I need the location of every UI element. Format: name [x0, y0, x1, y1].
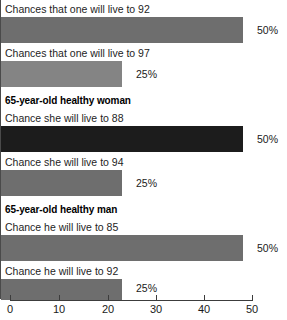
bar-value-6: 50% — [257, 242, 278, 254]
x-tick-40 — [204, 295, 205, 301]
bar-label-1: Chances that one will live to 97 — [5, 47, 150, 59]
horizontal-bar-chart: Chances that one will live to 92 50% Cha… — [0, 0, 287, 320]
bar-label-7: Chance he will live to 92 — [5, 265, 118, 277]
x-tick-label-50: 50 — [246, 303, 258, 316]
bar-1 — [1, 61, 122, 87]
x-tick-20 — [108, 295, 109, 301]
bar-value-4: 25% — [136, 177, 157, 189]
bar-value-3: 50% — [257, 133, 278, 145]
bar-value-7: 25% — [136, 282, 157, 294]
bar-3-highlighted — [1, 126, 243, 152]
x-tick-30 — [156, 295, 157, 301]
bar-label-0: Chances that one will live to 92 — [5, 3, 150, 15]
bar-label-4: Chance she will live to 94 — [5, 156, 123, 168]
x-tick-10 — [59, 295, 60, 301]
x-tick-label-10: 10 — [53, 303, 65, 316]
x-tick-0 — [10, 295, 11, 301]
bar-value-1: 25% — [136, 68, 157, 80]
x-tick-50 — [252, 295, 253, 301]
bar-value-0: 50% — [257, 24, 278, 36]
bar-label-3: Chance she will live to 88 — [5, 112, 123, 124]
x-tick-label-30: 30 — [150, 303, 162, 316]
group-header-man: 65-year-old healthy man — [5, 204, 117, 216]
bar-7 — [1, 279, 122, 300]
group-header-woman: 65-year-old healthy woman — [5, 95, 131, 107]
x-tick-label-0: 0 — [7, 303, 13, 316]
bar-4 — [1, 170, 122, 196]
x-tick-label-40: 40 — [198, 303, 210, 316]
x-axis-line — [10, 300, 253, 301]
x-tick-label-20: 20 — [102, 303, 114, 316]
bar-label-6: Chance he will live to 85 — [5, 221, 118, 233]
bar-6 — [1, 235, 243, 261]
bar-0 — [1, 17, 243, 43]
